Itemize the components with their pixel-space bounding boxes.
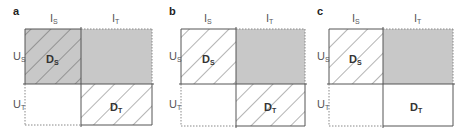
row-label-us: US [317,51,330,63]
col-label-it: IT [266,13,273,25]
source-target-region [383,29,453,84]
col-label-it: IT [414,13,421,25]
row-label-ut: UT [13,99,25,111]
panel-c-diagram [327,27,455,128]
dt-label: DT [110,101,122,114]
ds-label: DS [202,53,215,66]
col-label-is: IS [204,13,212,25]
panel-b-diagram [179,27,307,128]
panel-letter: a [13,5,19,17]
col-label-is: IS [352,13,360,25]
panel-letter: c [317,5,323,17]
panel-letter: b [169,5,176,17]
ds-label: DS [349,53,362,66]
col-label-it: IT [112,13,119,25]
dt-label: DT [264,101,276,114]
row-label-ut: UT [169,99,181,111]
row-label-us: US [169,51,182,63]
source-target-region [81,29,152,84]
panel-a-diagram [23,27,154,127]
source-target-region [236,29,305,84]
col-label-is: IS [50,13,58,25]
ds-label: DS [46,53,59,66]
row-label-us: US [13,51,26,63]
figure-canvas [0,0,467,135]
row-label-ut: UT [317,99,329,111]
dt-label: DT [410,101,422,114]
